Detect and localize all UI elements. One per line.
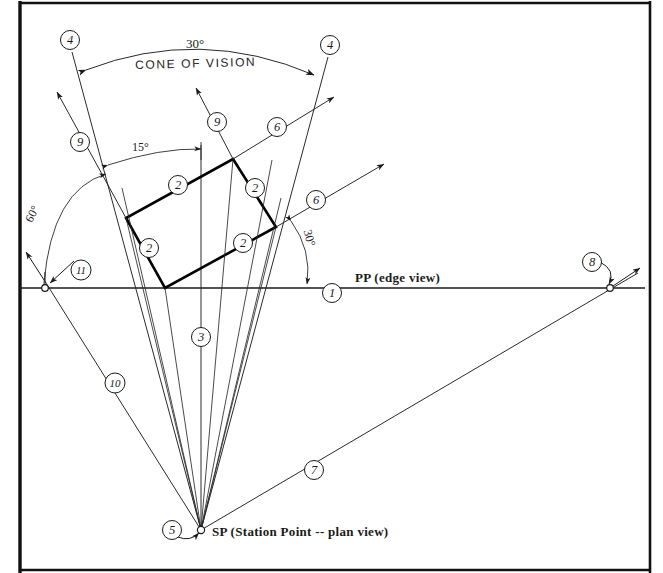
callout-9b: 9 bbox=[71, 133, 90, 152]
drawing-page: 1222234456678991011 PP (edge view) SP (S… bbox=[0, 0, 663, 573]
callout-2: 2 bbox=[169, 176, 188, 195]
station-point-label: SP (Station Point -- plan view) bbox=[212, 524, 389, 540]
callout-6b: 6 bbox=[307, 191, 326, 210]
right-vanishing-point-marker bbox=[607, 285, 614, 292]
cone-angle-value: 30° bbox=[186, 36, 204, 52]
callout-4b: 4 bbox=[321, 36, 340, 55]
callout-7: 7 bbox=[305, 461, 324, 480]
callout-number: 9 bbox=[214, 115, 221, 129]
callout-number: 2 bbox=[175, 178, 181, 192]
vanishing-point-markers bbox=[42, 285, 614, 534]
perspective-setup-diagram: 1222234456678991011 bbox=[0, 0, 663, 573]
callout-number: 4 bbox=[67, 33, 73, 47]
callout-6: 6 bbox=[268, 118, 287, 137]
station-point-marker bbox=[197, 526, 204, 533]
callout-8-leader bbox=[600, 262, 611, 284]
callout-number: 7 bbox=[311, 463, 318, 477]
right-direction-lines bbox=[233, 97, 384, 227]
callout-number: 11 bbox=[76, 264, 86, 276]
callout-9: 9 bbox=[208, 113, 227, 132]
callout-number: 5 bbox=[169, 523, 175, 537]
callout-number: 8 bbox=[589, 255, 596, 269]
callout-number: 1 bbox=[329, 286, 335, 300]
callout-number: 6 bbox=[274, 120, 281, 134]
callout-number: 9 bbox=[77, 135, 84, 149]
callout-10: 10 bbox=[105, 373, 125, 393]
picture-plane-label: PP (edge view) bbox=[355, 270, 440, 286]
callout-8: 8 bbox=[583, 253, 602, 272]
left-vanishing-point-marker bbox=[42, 285, 49, 292]
callout-2b: 2 bbox=[246, 179, 265, 198]
callout-2c: 2 bbox=[140, 239, 159, 258]
object-rotation-angle-value: 15° bbox=[132, 140, 149, 155]
callout-11: 11 bbox=[71, 260, 91, 280]
angle-15-dimension bbox=[108, 142, 201, 165]
callout-5: 5 bbox=[163, 521, 182, 540]
callout-number: 2 bbox=[146, 241, 152, 255]
callout-3: 3 bbox=[192, 328, 211, 347]
callout-number: 6 bbox=[313, 193, 320, 207]
callout-11-leader bbox=[50, 261, 74, 283]
callout-number: 2 bbox=[240, 236, 246, 250]
callout-number: 4 bbox=[327, 38, 333, 52]
callout-2d: 2 bbox=[234, 234, 253, 253]
callout-number: 3 bbox=[197, 330, 204, 344]
callout-number: 2 bbox=[252, 181, 258, 195]
ray-to-right-vanishing-point bbox=[201, 268, 640, 530]
callout-4: 4 bbox=[61, 31, 80, 50]
callout-1: 1 bbox=[323, 284, 342, 303]
callout-number: 10 bbox=[110, 377, 122, 389]
callout-bubbles: 1222234456678991011 bbox=[61, 31, 602, 540]
